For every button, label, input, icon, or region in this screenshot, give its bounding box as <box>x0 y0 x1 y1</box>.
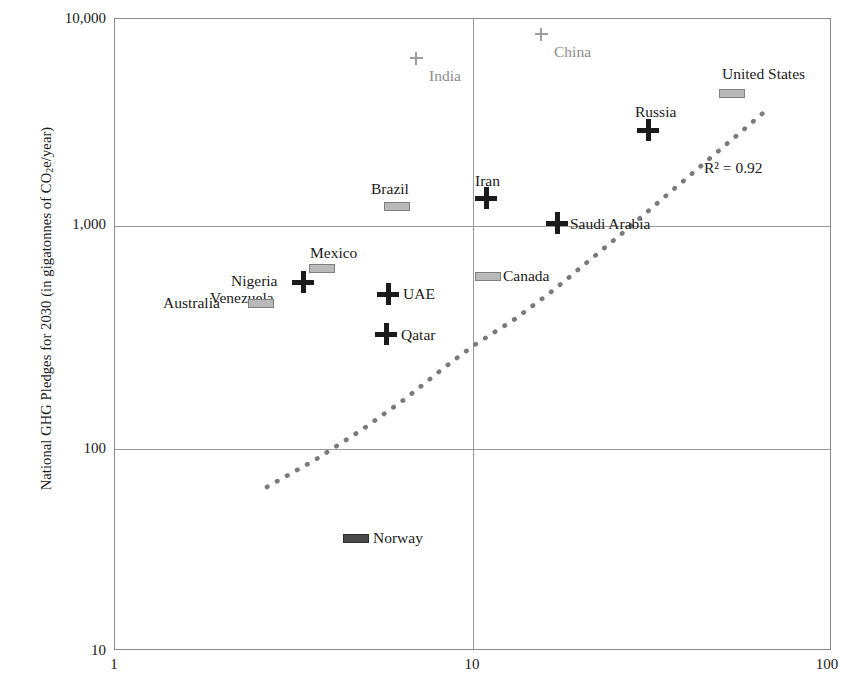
point-marker-canada <box>475 272 501 281</box>
x-tick-10: 10 <box>442 656 502 673</box>
point-marker-china <box>535 28 548 41</box>
point-label-australia: Australia <box>163 295 220 311</box>
point-label-india: India <box>429 68 461 84</box>
point-marker-qatar <box>375 323 397 345</box>
y-tick-10000: 10,000 <box>10 10 106 27</box>
point-label-saudi-arabia: Saudi Arabia <box>570 216 651 232</box>
y-axis-title: National GHG Pledges for 2030 (in gigato… <box>38 49 55 569</box>
y-axis-title-text: National GHG Pledges for 2030 (in gigato… <box>38 127 54 491</box>
gridline-x-10 <box>473 19 474 649</box>
y-tick-100: 100 <box>10 440 106 457</box>
point-label-united-states: United States <box>722 66 805 82</box>
point-marker-nigeria <box>292 271 314 293</box>
point-marker-norway <box>343 534 369 543</box>
point-label-uae: UAE <box>403 286 435 302</box>
plot-area: China India United States Russia Iran Br… <box>114 18 831 650</box>
point-label-canada: Canada <box>503 268 549 284</box>
point-marker-iran <box>475 187 497 209</box>
point-label-norway: Norway <box>373 530 423 546</box>
point-label-russia: Russia <box>635 104 676 120</box>
x-tick-1: 1 <box>84 656 144 673</box>
point-marker-united-states <box>719 89 745 98</box>
point-marker-brazil <box>384 202 410 211</box>
point-label-nigeria: Nigeria <box>231 273 277 289</box>
y-tick-1000: 1,000 <box>10 216 106 233</box>
r-squared-text: R² = 0.92 <box>704 159 763 176</box>
point-marker-uae <box>377 283 399 305</box>
x-tick-100: 100 <box>797 656 857 673</box>
point-label-iran: Iran <box>475 173 500 189</box>
point-label-qatar: Qatar <box>401 327 435 343</box>
point-marker-india <box>410 52 423 65</box>
point-marker-saudi-arabia <box>546 212 568 234</box>
point-marker-russia <box>637 119 659 141</box>
point-marker-australia <box>248 299 274 308</box>
point-label-mexico: Mexico <box>310 245 357 261</box>
scatter-chart: National GHG Pledges for 2030 (in gigato… <box>0 0 857 681</box>
point-label-china: China <box>554 44 591 60</box>
r-squared-annotation: R² = 0.92 <box>704 159 763 177</box>
point-label-brazil: Brazil <box>371 181 409 197</box>
